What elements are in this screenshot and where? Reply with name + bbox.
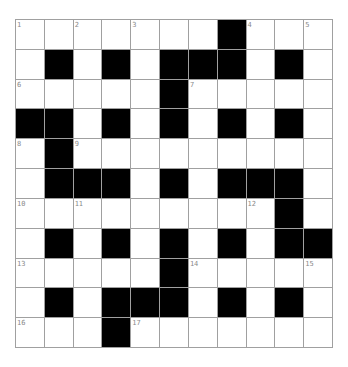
clue-number: 16 [17,320,25,327]
crossword-cell[interactable] [189,229,218,259]
crossword-cell[interactable] [74,259,103,289]
crossword-cell[interactable] [275,20,304,50]
crossword-cell[interactable] [304,199,333,229]
crossword-cell[interactable]: 14 [189,259,218,289]
crossword-cell[interactable] [247,109,276,139]
crossword-cell[interactable] [102,80,131,110]
crossword-cell[interactable] [131,139,160,169]
crossword-cell[interactable]: 9 [74,139,103,169]
crossword-cell[interactable] [74,288,103,318]
crossword-cell[interactable] [247,318,276,348]
crossword-cell[interactable] [275,318,304,348]
crossword-cell[interactable]: 13 [16,259,45,289]
crossword-cell[interactable] [275,80,304,110]
crossword-cell[interactable] [160,20,189,50]
crossword-cell[interactable] [218,199,247,229]
crossword-cell[interactable] [74,50,103,80]
crossword-cell[interactable] [304,109,333,139]
crossword-cell[interactable] [74,318,103,348]
crossword-cell[interactable] [218,139,247,169]
black-square [218,109,247,139]
clue-number: 7 [190,82,194,89]
crossword-cell[interactable]: 10 [16,199,45,229]
crossword-cell[interactable] [45,199,74,229]
crossword-cell[interactable] [102,139,131,169]
crossword-cell[interactable] [275,259,304,289]
crossword-cell[interactable] [131,199,160,229]
black-square [218,229,247,259]
crossword-cell[interactable] [189,199,218,229]
black-square [218,288,247,318]
crossword-cell[interactable] [189,139,218,169]
crossword-cell[interactable]: 7 [189,80,218,110]
crossword-cell[interactable] [16,229,45,259]
black-square [275,50,304,80]
crossword-cell[interactable] [304,169,333,199]
crossword-cell[interactable] [74,109,103,139]
crossword-cell[interactable]: 17 [131,318,160,348]
crossword-cell[interactable] [16,169,45,199]
crossword-cell[interactable] [189,169,218,199]
black-square [275,199,304,229]
crossword-cell[interactable] [131,169,160,199]
crossword-cell[interactable] [131,229,160,259]
crossword-cell[interactable] [189,109,218,139]
crossword-cell[interactable] [247,80,276,110]
crossword-cell[interactable]: 6 [16,80,45,110]
crossword-cell[interactable] [131,259,160,289]
crossword-cell[interactable] [304,139,333,169]
crossword-cell[interactable] [247,139,276,169]
crossword-cell[interactable] [160,139,189,169]
crossword-cell[interactable] [247,229,276,259]
crossword-cell[interactable]: 3 [131,20,160,50]
crossword-cell[interactable] [74,80,103,110]
crossword-cell[interactable] [45,259,74,289]
crossword-cell[interactable] [218,318,247,348]
crossword-cell[interactable] [74,229,103,259]
crossword-cell[interactable]: 16 [16,318,45,348]
crossword-cell[interactable] [247,50,276,80]
crossword-cell[interactable] [304,318,333,348]
crossword-cell[interactable] [160,318,189,348]
crossword-cell[interactable] [189,318,218,348]
crossword-cell[interactable] [218,259,247,289]
black-square [218,20,247,50]
crossword-cell[interactable] [16,50,45,80]
crossword-cell[interactable] [247,288,276,318]
crossword-cell[interactable]: 12 [247,199,276,229]
crossword-cell[interactable] [247,259,276,289]
clue-number: 4 [248,22,252,29]
crossword-cell[interactable] [102,20,131,50]
crossword-cell[interactable] [160,199,189,229]
crossword-cell[interactable] [45,80,74,110]
crossword-cell[interactable] [304,288,333,318]
crossword-cell[interactable] [131,109,160,139]
crossword-cell[interactable] [16,288,45,318]
clue-number: 14 [190,261,198,268]
crossword-cell[interactable] [131,50,160,80]
crossword-cell[interactable]: 2 [74,20,103,50]
crossword-cell[interactable] [275,139,304,169]
crossword-cell[interactable]: 5 [304,20,333,50]
crossword-cell[interactable] [102,199,131,229]
crossword-cell[interactable] [131,80,160,110]
black-square [160,50,189,80]
crossword-cell[interactable]: 8 [16,139,45,169]
black-square [160,109,189,139]
crossword-cell[interactable] [189,20,218,50]
black-square [218,50,247,80]
black-square [102,318,131,348]
crossword-cell[interactable] [45,318,74,348]
crossword-cell[interactable]: 11 [74,199,103,229]
crossword-grid: 1234567891011121314151617 [15,19,333,348]
crossword-cell[interactable] [304,50,333,80]
clue-number: 17 [132,320,140,327]
crossword-cell[interactable] [189,288,218,318]
crossword-cell[interactable] [304,80,333,110]
crossword-cell[interactable]: 4 [247,20,276,50]
crossword-cell[interactable] [45,20,74,50]
crossword-cell[interactable]: 15 [304,259,333,289]
crossword-cell[interactable] [102,259,131,289]
crossword-cell[interactable]: 1 [16,20,45,50]
crossword-cell[interactable] [218,80,247,110]
